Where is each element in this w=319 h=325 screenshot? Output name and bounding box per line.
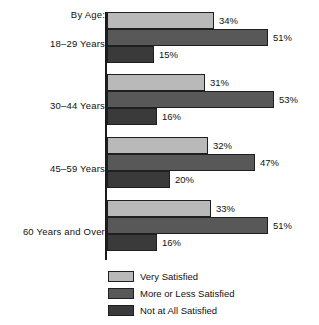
bar-row-not-at-all-satisfied: 16% xyxy=(107,108,319,125)
legend-item-very-satisfied: Very Satisfied xyxy=(108,269,235,284)
bar-row-very-satisfied: 31% xyxy=(107,74,319,91)
bar-row-not-at-all-satisfied: 20% xyxy=(107,171,319,188)
plot-area: 34% 51% 15% 31% 53% 16% xyxy=(105,12,319,260)
legend-swatch-icon xyxy=(108,288,134,299)
legend-item-more-or-less-satisfied: More or Less Satisfied xyxy=(108,286,235,301)
bar-group-60-over: 33% 51% 16% xyxy=(107,200,319,251)
bar-value-not-at-all-satisfied: 16% xyxy=(162,237,181,248)
bar-row-not-at-all-satisfied: 15% xyxy=(107,46,319,63)
bar-more-or-less-satisfied xyxy=(107,217,268,234)
bar-value-more-or-less-satisfied: 51% xyxy=(273,220,292,231)
bar-value-not-at-all-satisfied: 16% xyxy=(162,111,181,122)
bar-more-or-less-satisfied xyxy=(107,29,268,46)
bar-value-more-or-less-satisfied: 47% xyxy=(260,157,279,168)
bar-value-very-satisfied: 32% xyxy=(213,140,232,151)
bar-value-very-satisfied: 33% xyxy=(216,203,235,214)
legend-swatch-icon xyxy=(108,305,134,316)
bar-row-more-or-less-satisfied: 51% xyxy=(107,29,319,46)
bar-value-very-satisfied: 34% xyxy=(219,15,238,26)
legend-swatch-icon xyxy=(108,271,134,282)
bar-very-satisfied xyxy=(107,200,211,217)
category-label-18-29: 18–29 Years xyxy=(50,39,105,49)
bar-group-45-59: 32% 47% 20% xyxy=(107,137,319,188)
bar-value-not-at-all-satisfied: 20% xyxy=(175,174,194,185)
chart-header-label: By Age: xyxy=(71,10,105,20)
legend-item-not-at-all-satisfied: Not at All Satisfied xyxy=(108,303,235,318)
bar-not-at-all-satisfied xyxy=(107,234,157,251)
bar-very-satisfied xyxy=(107,137,208,154)
bar-value-more-or-less-satisfied: 51% xyxy=(273,32,292,43)
bar-value-not-at-all-satisfied: 15% xyxy=(159,49,178,60)
legend-label-not-at-all-satisfied: Not at All Satisfied xyxy=(140,305,217,316)
bar-not-at-all-satisfied xyxy=(107,108,157,125)
legend-label-more-or-less-satisfied: More or Less Satisfied xyxy=(140,288,235,299)
chart-legend: Very Satisfied More or Less Satisfied No… xyxy=(108,269,235,320)
bar-value-very-satisfied: 31% xyxy=(210,77,229,88)
bar-row-very-satisfied: 33% xyxy=(107,200,319,217)
bar-group-18-29: 34% 51% 15% xyxy=(107,12,319,63)
bar-row-very-satisfied: 32% xyxy=(107,137,319,154)
bar-value-more-or-less-satisfied: 53% xyxy=(279,94,298,105)
bar-row-more-or-less-satisfied: 53% xyxy=(107,91,319,108)
bar-very-satisfied xyxy=(107,12,214,29)
legend-label-very-satisfied: Very Satisfied xyxy=(140,271,198,282)
bar-more-or-less-satisfied xyxy=(107,91,274,108)
bar-not-at-all-satisfied xyxy=(107,171,170,188)
bar-row-more-or-less-satisfied: 51% xyxy=(107,217,319,234)
bar-row-not-at-all-satisfied: 16% xyxy=(107,234,319,251)
category-label-45-59: 45–59 Years xyxy=(50,164,105,174)
horizontal-bar-chart: By Age: 18–29 Years 30–44 Years 45–59 Ye… xyxy=(0,0,319,325)
category-label-30-44: 30–44 Years xyxy=(50,101,105,111)
bar-row-more-or-less-satisfied: 47% xyxy=(107,154,319,171)
bar-more-or-less-satisfied xyxy=(107,154,255,171)
bar-row-very-satisfied: 34% xyxy=(107,12,319,29)
category-label-60-over: 60 Years and Over xyxy=(23,227,105,237)
bar-group-30-44: 31% 53% 16% xyxy=(107,74,319,125)
bar-not-at-all-satisfied xyxy=(107,46,154,63)
bar-very-satisfied xyxy=(107,74,205,91)
